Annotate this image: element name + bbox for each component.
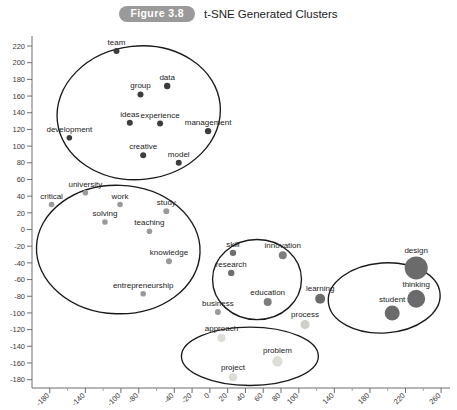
point-marker xyxy=(215,309,221,315)
point-label: team xyxy=(108,38,126,47)
y-tick-label: 180 xyxy=(12,75,25,84)
data-point: solving xyxy=(92,209,117,225)
point-marker xyxy=(83,190,89,196)
point-marker xyxy=(113,48,119,54)
x-tick-label: -180 xyxy=(34,391,51,408)
point-label: research xyxy=(216,260,247,269)
point-label: management xyxy=(185,118,232,127)
point-marker xyxy=(102,219,108,225)
data-point: management xyxy=(185,118,232,134)
point-marker xyxy=(140,152,146,158)
data-point: approach xyxy=(205,324,238,342)
data-point: study xyxy=(157,198,176,214)
x-tick-label: -20 xyxy=(179,391,193,405)
point-marker xyxy=(279,251,287,259)
point-marker xyxy=(229,373,237,381)
point-label: knowledge xyxy=(150,248,189,257)
data-point: design xyxy=(404,246,428,279)
point-label: design xyxy=(404,246,428,255)
data-point: ideas xyxy=(120,110,139,126)
point-marker xyxy=(138,91,144,97)
point-marker xyxy=(49,202,55,208)
scatter-plot: 220200180160140120100806040200-20-40-60-… xyxy=(0,0,457,410)
data-point: development xyxy=(46,125,93,141)
point-label: innovation xyxy=(265,241,301,250)
point-label: creative xyxy=(129,142,158,151)
point-label: study xyxy=(157,198,176,207)
y-tick-label: 80 xyxy=(17,158,25,167)
problem-solving-cluster xyxy=(181,327,318,385)
point-label: skill xyxy=(226,240,240,249)
point-marker xyxy=(176,160,182,166)
data-point: skill xyxy=(226,240,240,256)
point-label: education xyxy=(250,288,285,297)
y-tick-label: 220 xyxy=(12,42,25,51)
x-tick-label: -80 xyxy=(126,391,140,405)
point-marker xyxy=(264,298,272,306)
data-point: process xyxy=(291,310,319,329)
point-label: approach xyxy=(205,324,238,333)
y-tick-label: 140 xyxy=(12,108,25,117)
point-marker xyxy=(272,356,282,366)
y-tick-label: 60 xyxy=(17,175,25,184)
y-tick-label: -160 xyxy=(10,359,25,368)
point-marker xyxy=(385,305,400,320)
data-point: research xyxy=(216,260,247,276)
point-label: group xyxy=(130,81,151,90)
point-marker xyxy=(127,120,133,126)
point-label: development xyxy=(46,125,93,134)
y-tick-label: 0 xyxy=(21,225,25,234)
point-marker xyxy=(147,228,153,234)
point-label: ideas xyxy=(120,110,139,119)
x-tick-label: -100 xyxy=(105,391,122,408)
y-tick-label: -120 xyxy=(10,325,25,334)
y-tick-label: -40 xyxy=(14,259,25,268)
data-point: entrepreneurship xyxy=(113,281,174,297)
point-marker xyxy=(230,250,236,256)
x-tick-label: 180 xyxy=(356,391,371,406)
data-point: knowledge xyxy=(150,248,189,264)
point-marker xyxy=(157,121,163,127)
x-tick-label: 140 xyxy=(321,391,336,406)
point-label: critical xyxy=(40,192,63,201)
point-marker xyxy=(205,128,211,134)
x-tick-label: -140 xyxy=(70,391,87,408)
point-label: project xyxy=(221,363,246,372)
y-tick-label: 200 xyxy=(12,58,25,67)
data-point: model xyxy=(168,150,190,166)
point-label: entrepreneurship xyxy=(113,281,174,290)
point-marker xyxy=(166,258,172,264)
y-tick-label: 160 xyxy=(12,92,25,101)
point-label: solving xyxy=(92,209,117,218)
x-tick-label: 100 xyxy=(285,391,300,406)
data-point: work xyxy=(111,192,130,208)
point-marker xyxy=(163,208,169,214)
point-marker xyxy=(117,202,123,208)
figure-root: Figure 3.8 t-SNE Generated Clusters 2202… xyxy=(0,0,457,410)
plot-canvas: 220200180160140120100806040200-20-40-60-… xyxy=(0,0,457,410)
data-point: university xyxy=(68,180,102,196)
data-point: creative xyxy=(129,142,158,158)
y-tick-label: -20 xyxy=(14,242,25,251)
point-label: data xyxy=(159,73,175,82)
data-point: student xyxy=(379,295,406,320)
x-tick-label: 260 xyxy=(427,391,442,406)
data-point: critical xyxy=(40,192,63,208)
x-tick-label: -40 xyxy=(162,391,176,405)
x-tick-label: 220 xyxy=(392,391,407,406)
point-marker xyxy=(140,291,146,297)
point-label: teaching xyxy=(134,218,164,227)
y-tick-group: 220200180160140120100806040200-20-40-60-… xyxy=(10,42,32,385)
point-label: problem xyxy=(263,346,292,355)
data-point: team xyxy=(108,38,126,54)
y-tick-label: -100 xyxy=(10,309,25,318)
y-tick-label: 100 xyxy=(12,142,25,151)
x-axis: -180-140-100-80-40-200204060801001401802… xyxy=(32,388,450,408)
point-label: university xyxy=(68,180,102,189)
y-axis: 220200180160140120100806040200-20-40-60-… xyxy=(10,36,32,388)
point-label: business xyxy=(202,299,234,308)
point-label: experience xyxy=(140,111,180,120)
data-point: education xyxy=(250,288,285,306)
y-tick-label: 120 xyxy=(12,125,25,134)
point-label: work xyxy=(111,192,130,201)
